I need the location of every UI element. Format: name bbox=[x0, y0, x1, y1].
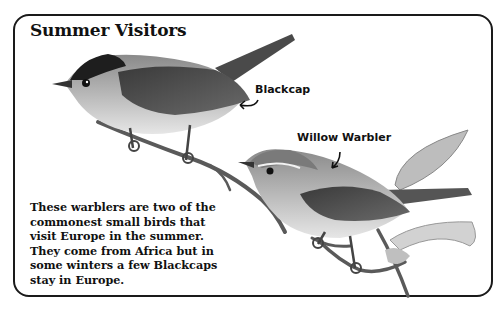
blackcap-bird bbox=[52, 34, 295, 163]
leaf-lower bbox=[390, 222, 476, 250]
blackcap-label: Blackcap bbox=[255, 83, 310, 96]
willow-warbler-label: Willow Warbler bbox=[297, 131, 391, 144]
leaf-upper bbox=[395, 130, 468, 190]
body-paragraph: These warblers are two of the commonest … bbox=[30, 200, 270, 288]
